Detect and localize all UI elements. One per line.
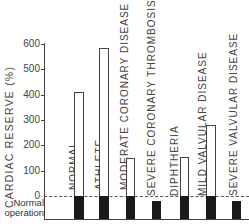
bar-reserve-mild-valvular xyxy=(206,125,216,197)
category-label-mild-valvular: MILD VALVULAR DISEASE xyxy=(191,30,203,196)
normal-operation-label: Normal operation xyxy=(0,198,44,218)
y-axis-title: CARDIAC RESERVE (%) xyxy=(3,66,15,208)
bar-normal-operation-diphtheria xyxy=(180,196,189,219)
bar-normal-operation-severe-coronary-thrombosis xyxy=(152,201,161,219)
category-label-moderate-coronary: MODERATE CORONARY DISEASE xyxy=(113,0,125,190)
label-text: SEVERE VALVULAR DISEASE xyxy=(228,33,239,196)
label-text: DIPHTHERIA xyxy=(169,125,180,196)
category-label-severe-coronary-thrombosis: SEVERE CORONARY THROMBOSIS xyxy=(140,0,152,196)
x-axis xyxy=(44,219,249,220)
y-tick-300: 300 xyxy=(12,114,40,125)
category-label-severe-valvular: SEVERE VALVULAR DISEASE xyxy=(222,20,234,196)
y-tick-600: 600 xyxy=(12,38,40,49)
category-label-diphtheria: DIPHTHERIA xyxy=(163,100,175,196)
bar-reserve-diphtheria xyxy=(180,157,189,197)
y-tick-200: 200 xyxy=(12,139,40,150)
y-tick-100: 100 xyxy=(12,165,40,176)
normal-operation-line2: operation xyxy=(0,208,44,218)
bar-normal-operation-moderate-coronary xyxy=(126,196,135,219)
y-tick-400: 400 xyxy=(12,89,40,100)
label-text: SEVERE CORONARY THROMBOSIS xyxy=(146,0,157,196)
y-tick-500: 500 xyxy=(12,63,40,74)
bar-normal-operation-severe-valvular xyxy=(232,201,241,219)
bar-normal-operation-mild-valvular xyxy=(206,196,216,219)
bar-reserve-normal xyxy=(74,92,84,197)
bar-normal-operation-athlete xyxy=(99,196,109,219)
category-label-normal: NORMAL xyxy=(62,90,74,190)
bar-reserve-athlete xyxy=(99,48,109,197)
bar-reserve-moderate-coronary xyxy=(126,158,135,197)
y-axis xyxy=(44,43,45,219)
bar-normal-operation-normal xyxy=(74,196,84,219)
